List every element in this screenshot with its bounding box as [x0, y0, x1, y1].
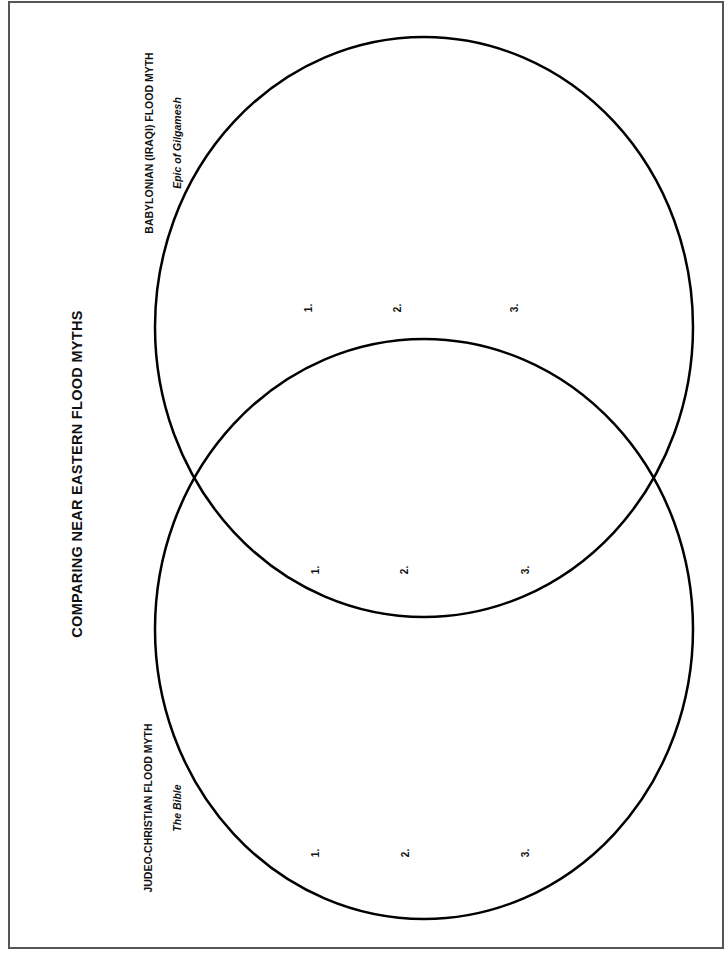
overlap-item-2: 2.: [399, 566, 410, 574]
venn-circle-babylonian: [155, 37, 693, 617]
overlap-item-1: 1.: [310, 566, 321, 574]
babylonian-item-3: 3.: [509, 304, 520, 312]
page-title: COMPARING NEAR EASTERN FLOOD MYTHS: [69, 310, 85, 637]
judeo-christian-subheading: The Bible: [171, 784, 183, 831]
babylonian-item-2: 2.: [392, 304, 403, 312]
babylonian-heading: BABYLONIAN (IRAQI) FLOOD MYTH: [143, 52, 155, 233]
judeo-christian-item-2: 2.: [400, 849, 411, 857]
venn-circle-judeo-christian: [155, 339, 693, 919]
babylonian-item-1: 1.: [303, 304, 314, 312]
babylonian-subheading: Epic of Gilgamesh: [171, 97, 183, 189]
overlap-item-3: 3.: [520, 566, 531, 574]
judeo-christian-heading: JUDEO-CHRISTIAN FLOOD MYTH: [142, 723, 154, 892]
judeo-christian-item-3: 3.: [520, 849, 531, 857]
judeo-christian-item-1: 1.: [310, 849, 321, 857]
